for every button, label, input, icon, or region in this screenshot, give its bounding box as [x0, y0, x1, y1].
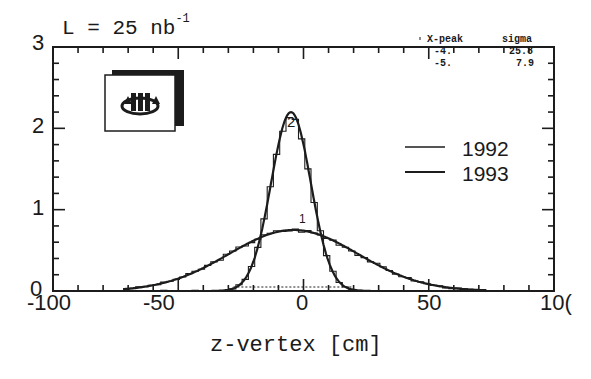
x-tick-minus100: -100 — [27, 290, 71, 316]
curve-label-2: 2 — [287, 113, 295, 130]
stats-sigma-1: 25.8 — [509, 46, 533, 57]
logo-bar-icon — [131, 93, 136, 111]
x-tick-100: 10( — [540, 290, 572, 316]
stats-header-sigma: sigma — [502, 34, 532, 45]
chart-title: L = 25 nb-1 — [62, 16, 190, 40]
plot-area — [0, 0, 591, 379]
legend-label-1992: 1992 — [462, 137, 509, 161]
stats-header-xpeak: X-peak — [427, 34, 463, 45]
stats-sigma-2: 7.9 — [516, 58, 534, 69]
legend-label-1993: 1993 — [462, 162, 509, 186]
x-tick-minus50: -50 — [143, 290, 175, 316]
logo-bar-icon — [145, 93, 150, 111]
x-tick-50: 50 — [417, 290, 441, 316]
x-tick-0: 0 — [296, 290, 308, 316]
y-tick-1: 1 — [32, 195, 44, 221]
curve-label-1: 1 — [299, 212, 306, 226]
stats-xpeak-2: -5. — [434, 58, 452, 69]
stats-xpeak-1: -4. — [434, 46, 452, 57]
title-superscript: -1 — [175, 12, 189, 26]
y-tick-3: 3 — [32, 30, 44, 56]
y-tick-2: 2 — [32, 113, 44, 139]
x-axis-label: z-vertex [cm] — [210, 333, 382, 358]
logo-bar-icon — [138, 93, 143, 111]
histogram-1993 — [123, 118, 486, 291]
title-text: L = 25 nb — [62, 17, 175, 40]
